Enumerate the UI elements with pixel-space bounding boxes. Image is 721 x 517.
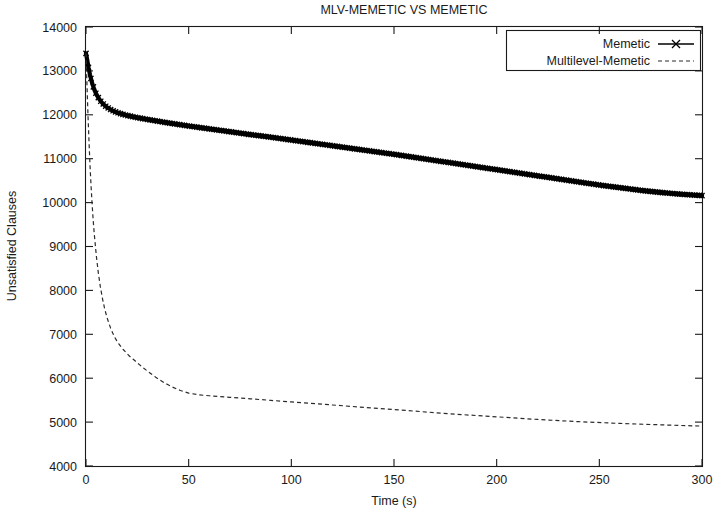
legend-label-multilevel-memetic: Multilevel-Memetic: [547, 54, 651, 68]
y-tick-label: 13000: [42, 64, 77, 78]
x-tick-label: 50: [182, 473, 196, 487]
y-tick-label: 9000: [49, 240, 77, 254]
y-tick-label: 12000: [42, 108, 77, 122]
chart-title: MLV-MEMETIC VS MEMETIC: [320, 3, 487, 17]
y-tick-label: 10000: [42, 196, 77, 210]
x-axis-title: Time (s): [371, 494, 416, 508]
x-tick-label: 250: [589, 473, 610, 487]
x-tick-label: 200: [486, 473, 507, 487]
x-tick-label: 300: [692, 473, 713, 487]
y-tick-label: 5000: [49, 416, 77, 430]
y-tick-label: 11000: [43, 152, 77, 166]
y-tick-label: 6000: [49, 372, 77, 386]
y-tick-label: 7000: [49, 328, 77, 342]
legend-label-memetic: Memetic: [603, 37, 650, 51]
x-tick-label: 100: [281, 473, 302, 487]
y-tick-label: 14000: [42, 21, 77, 35]
y-axis-title: Unsatisfied Clauses: [5, 191, 19, 301]
chart-figure: MLV-MEMETIC VS MEMETIC 40005000600070008…: [0, 0, 721, 517]
x-tick-label: 0: [83, 473, 90, 487]
chart-background: [0, 0, 721, 517]
line-chart: MLV-MEMETIC VS MEMETIC 40005000600070008…: [0, 0, 721, 517]
y-tick-label: 4000: [49, 460, 77, 474]
y-tick-label: 8000: [49, 284, 77, 298]
x-tick-label: 150: [384, 473, 405, 487]
